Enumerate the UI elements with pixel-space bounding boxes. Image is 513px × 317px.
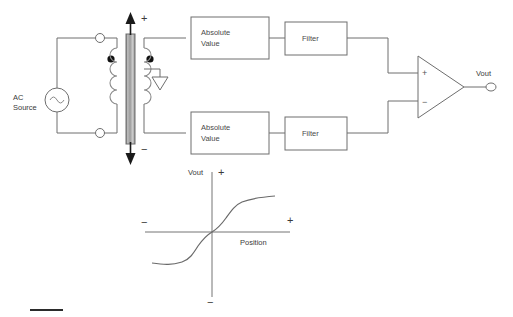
absolute-value-block-bottom: [191, 112, 269, 154]
filter-top-label: Filter: [302, 34, 319, 43]
filter-bottom-label: Filter: [302, 129, 319, 138]
primary-winding-group: [105, 38, 118, 133]
core-bar: [126, 34, 135, 144]
differential-amplifier-group: + −: [418, 56, 496, 118]
wire-filter-bottom-to-amp-minus: [347, 101, 418, 133]
absolute-value-top-line2: Value: [201, 39, 220, 48]
plot-x-plus-sign: +: [287, 214, 293, 226]
core-plus-sign: +: [141, 12, 147, 24]
plot-y-minus-sign: −: [207, 296, 213, 308]
absolute-value-block-top: [191, 17, 269, 59]
primary-terminal-top: [96, 34, 105, 43]
plot-curve: [152, 196, 275, 264]
differential-amplifier-icon: [418, 56, 464, 118]
plot-x-label: Position: [240, 238, 267, 247]
movable-core-group: [126, 12, 136, 165]
vout-label: Vout: [476, 69, 492, 78]
absolute-value-bottom-line1: Absolute: [201, 123, 230, 132]
core-arrow-up-icon: [126, 12, 136, 24]
ac-source-label-line1: AC: [13, 93, 24, 102]
amp-plus-sign: +: [422, 68, 427, 78]
primary-bottom-wire: [105, 104, 118, 133]
amp-minus-sign: −: [422, 97, 427, 107]
ac-source-group: [45, 38, 95, 133]
ground-icon: [152, 77, 168, 90]
absolute-value-top-line1: Absolute: [201, 28, 230, 37]
secondary-bottom-wire: [144, 104, 186, 133]
vout-terminal: [486, 83, 496, 91]
footer-rule: [30, 309, 63, 311]
plot-y-plus-sign: +: [218, 166, 224, 178]
primary-terminal-bottom: [96, 129, 105, 138]
core-arrow-up-stem: [130, 23, 132, 35]
plot-y-label: Vout: [188, 168, 204, 177]
transfer-curve-plot: Vout + − − + Position: [141, 166, 293, 308]
ac-source-label-line2: Source: [13, 103, 37, 112]
lvdt-schematic: AC Source: [0, 0, 513, 317]
plot-x-minus-sign: −: [141, 216, 147, 228]
secondary-winding-group: [144, 38, 186, 133]
core-arrow-down-stem: [130, 142, 132, 154]
source-top-lead: [57, 38, 95, 88]
core-minus-sign: −: [141, 143, 147, 155]
secondary-top-wire: [144, 38, 186, 48]
diagram-canvas: AC Source: [0, 0, 513, 317]
absolute-value-bottom-line2: Value: [201, 134, 220, 143]
core-arrow-down-icon: [126, 153, 136, 165]
source-bottom-lead: [57, 112, 95, 133]
primary-top-wire: [105, 38, 118, 48]
wire-filter-top-to-amp-plus: [347, 38, 418, 73]
